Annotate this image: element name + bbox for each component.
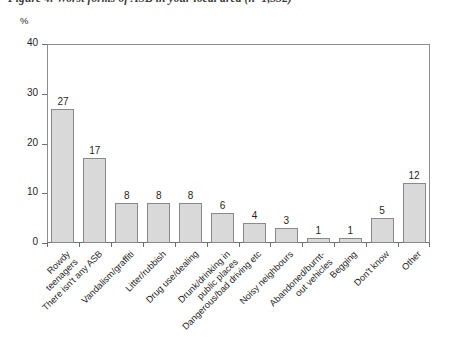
bar-slot[interactable]: 8: [143, 44, 175, 243]
x-axis-tick-mark: [302, 243, 303, 247]
x-axis-tick-mark: [366, 243, 367, 247]
x-axis-tick-mark: [111, 243, 112, 247]
x-axis-tick-mark: [270, 243, 271, 247]
bar-slot[interactable]: 4: [239, 44, 271, 243]
y-axis-tick-label: 40: [27, 37, 38, 48]
bar-value-label: 8: [143, 190, 175, 201]
bar-slot[interactable]: 6: [207, 44, 239, 243]
y-axis-tick-label: 30: [27, 87, 38, 98]
x-axis-tick-mark: [429, 243, 430, 247]
bar-value-label: 1: [302, 225, 334, 236]
bar-chart: % 010203040 271788864311512 Rowdyteenage…: [0, 0, 455, 360]
x-axis-tick-mark: [334, 243, 335, 247]
bar-slot[interactable]: 17: [79, 44, 111, 243]
bar-value-label: 3: [270, 215, 302, 226]
bar[interactable]: [51, 109, 74, 243]
bar[interactable]: [243, 223, 266, 243]
bar[interactable]: [179, 203, 202, 243]
bar[interactable]: [275, 228, 298, 243]
bar-slot[interactable]: 1: [334, 44, 366, 243]
x-axis-tick-mark: [398, 243, 399, 247]
bar-value-label: 6: [207, 200, 239, 211]
bar-slot[interactable]: 1: [302, 44, 334, 243]
bar[interactable]: [115, 203, 138, 243]
x-axis-tick-mark: [239, 243, 240, 247]
bar-value-label: 12: [398, 170, 430, 181]
bars-layer: 271788864311512: [47, 44, 430, 243]
y-axis-tick-label: 20: [27, 137, 38, 148]
x-axis-tick-mark: [143, 243, 144, 247]
bar[interactable]: [371, 218, 394, 243]
y-axis-tick-label: 10: [27, 186, 38, 197]
bar[interactable]: [403, 183, 426, 243]
bar-value-label: 5: [366, 205, 398, 216]
bar-value-label: 8: [175, 190, 207, 201]
bar-slot[interactable]: 27: [47, 44, 79, 243]
y-axis-tick-label: 0: [32, 236, 38, 247]
bar-value-label: 1: [334, 225, 366, 236]
bar-value-label: 8: [111, 190, 143, 201]
x-axis-tick-mark: [207, 243, 208, 247]
bar-value-label: 17: [79, 145, 111, 156]
bar-slot[interactable]: 3: [270, 44, 302, 243]
bar[interactable]: [147, 203, 170, 243]
y-axis-unit-label: %: [20, 15, 28, 26]
x-axis-tick-mark: [175, 243, 176, 247]
bar-slot[interactable]: 5: [366, 44, 398, 243]
x-axis-tick-mark: [47, 243, 48, 247]
x-axis-tick-mark: [79, 243, 80, 247]
bar-value-label: 4: [239, 210, 271, 221]
bar-slot[interactable]: 12: [398, 44, 430, 243]
x-axis-category-label[interactable]: Other: [400, 249, 424, 273]
bar-slot[interactable]: 8: [175, 44, 207, 243]
x-axis-category-label-line: Other: [400, 249, 424, 273]
bar-value-label: 27: [47, 96, 79, 107]
bar[interactable]: [211, 213, 234, 243]
bar-slot[interactable]: 8: [111, 44, 143, 243]
bar[interactable]: [83, 158, 106, 243]
x-axis-ticks: [47, 243, 430, 248]
